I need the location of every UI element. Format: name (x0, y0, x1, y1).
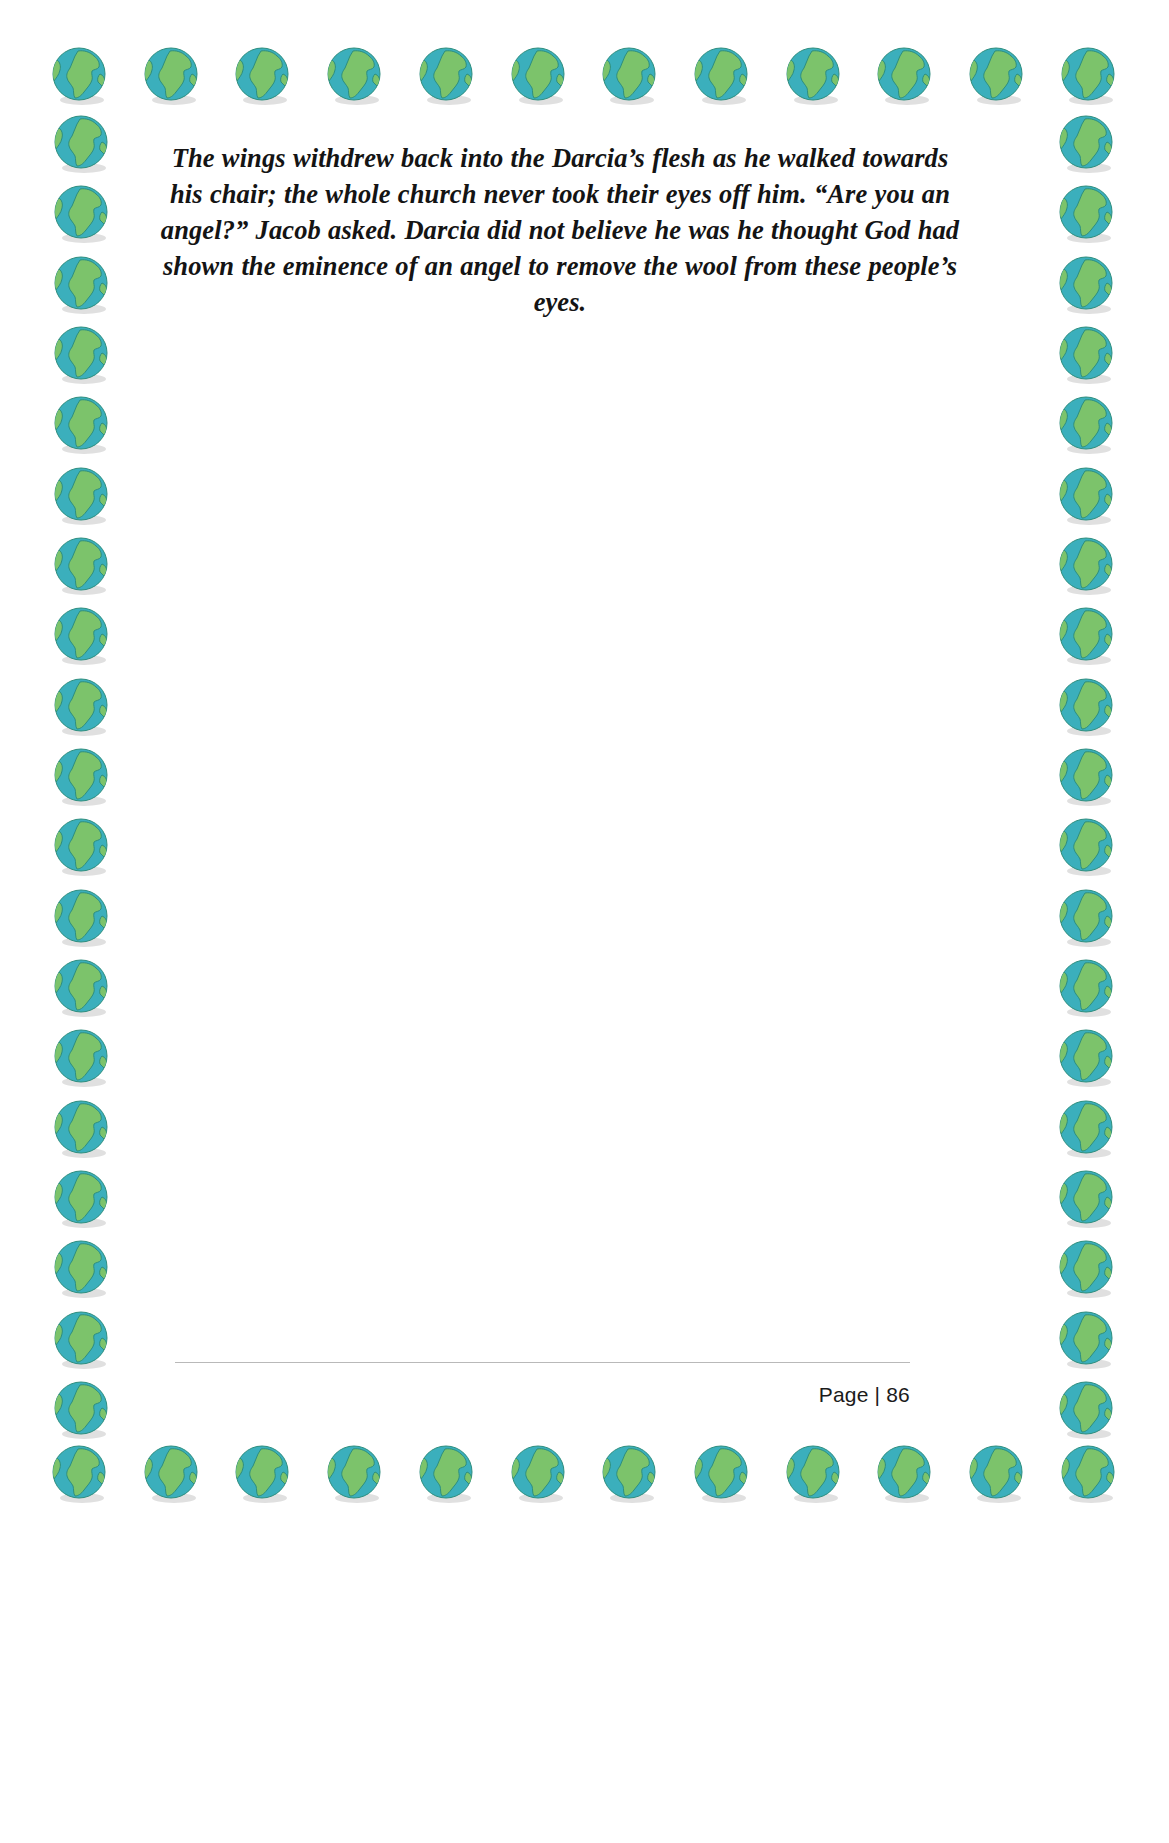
globe-icon (507, 44, 571, 108)
globe-icon (1057, 1442, 1121, 1506)
globe-icon (782, 1442, 846, 1506)
body-paragraph: The wings withdrew back into the Darcia’… (160, 140, 960, 320)
globe-icon (873, 1442, 937, 1506)
globe-icon (50, 1167, 114, 1231)
globe-icon (1055, 1167, 1119, 1231)
globe-icon (415, 44, 479, 108)
page-content: The wings withdrew back into the Darcia’… (160, 140, 960, 320)
globe-icon (1055, 745, 1119, 809)
globe-icon (323, 1442, 387, 1506)
globe-icon (48, 44, 112, 108)
globe-icon (140, 1442, 204, 1506)
globe-icon (50, 323, 114, 387)
globe-icon (1055, 1026, 1119, 1090)
globe-icon (50, 745, 114, 809)
globe-icon (48, 1442, 112, 1506)
globe-icon (231, 1442, 295, 1506)
globe-icon (50, 1378, 114, 1442)
globe-icon (598, 1442, 662, 1506)
globe-icon (50, 182, 114, 246)
globe-icon (782, 44, 846, 108)
globe-icon (965, 44, 1029, 108)
page-footer: Page | 86 (175, 1362, 910, 1407)
globe-icon (50, 534, 114, 598)
globe-border-left-column (48, 112, 116, 1442)
globe-icon (690, 44, 754, 108)
globe-icon (1055, 815, 1119, 879)
globe-icon (1057, 44, 1121, 108)
globe-icon (1055, 182, 1119, 246)
globe-icon (50, 1308, 114, 1372)
globe-icon (50, 253, 114, 317)
globe-icon (50, 1237, 114, 1301)
globe-icon (1055, 464, 1119, 528)
globe-icon (50, 393, 114, 457)
globe-icon (1055, 886, 1119, 950)
globe-icon (1055, 956, 1119, 1020)
globe-border-bottom-row (48, 1442, 1121, 1506)
globe-icon (231, 44, 295, 108)
page-number-label: Page | 86 (175, 1363, 910, 1407)
globe-icon (415, 1442, 479, 1506)
globe-icon (1055, 1308, 1119, 1372)
globe-icon (1055, 253, 1119, 317)
globe-icon (690, 1442, 754, 1506)
globe-icon (50, 886, 114, 950)
globe-icon (873, 44, 937, 108)
document-page: The wings withdrew back into the Darcia’… (0, 0, 1169, 1843)
globe-icon (50, 1097, 114, 1161)
globe-icon (323, 44, 387, 108)
globe-icon (1055, 393, 1119, 457)
globe-icon (1055, 1378, 1119, 1442)
globe-icon (1055, 604, 1119, 668)
globe-border-right-column (1053, 112, 1121, 1442)
globe-icon (140, 44, 204, 108)
globe-icon (50, 815, 114, 879)
globe-icon (50, 464, 114, 528)
globe-icon (50, 956, 114, 1020)
globe-icon (50, 112, 114, 176)
globe-icon (50, 1026, 114, 1090)
globe-icon (598, 44, 662, 108)
globe-icon (1055, 1097, 1119, 1161)
globe-icon (965, 1442, 1029, 1506)
globe-icon (507, 1442, 571, 1506)
globe-icon (1055, 112, 1119, 176)
globe-icon (50, 604, 114, 668)
globe-icon (1055, 1237, 1119, 1301)
globe-border-top-row (48, 44, 1121, 108)
globe-icon (1055, 323, 1119, 387)
globe-icon (50, 675, 114, 739)
globe-icon (1055, 675, 1119, 739)
globe-icon (1055, 534, 1119, 598)
